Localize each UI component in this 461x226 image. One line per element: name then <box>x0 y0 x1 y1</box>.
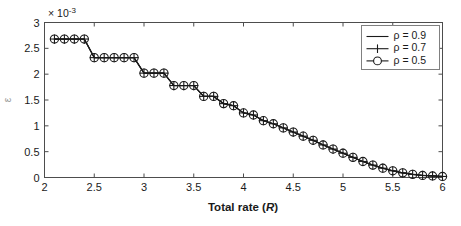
legend-entry-label: ρ = 0.9 <box>394 29 427 41</box>
y-axis-exponent-label: × 10-3 <box>48 6 76 19</box>
figure-container: 22.533.544.555.5600.511.522.53 ρ = 0.9ρ … <box>0 0 461 226</box>
chart-canvas: 22.533.544.555.5600.511.522.53 ρ = 0.9ρ … <box>0 0 461 226</box>
legend-entry-label: ρ = 0.5 <box>394 54 427 66</box>
x-tick-label: 2.5 <box>87 181 102 193</box>
chart-legend: ρ = 0.9ρ = 0.7ρ = 0.5 <box>362 26 440 70</box>
y-axis-title: ε <box>2 97 13 102</box>
y-tick-label: 1 <box>33 120 39 132</box>
x-tick-label: 5 <box>340 181 346 193</box>
x-tick-label: 5.5 <box>385 181 400 193</box>
legend-entry-label: ρ = 0.7 <box>394 41 427 53</box>
x-tick-label: 6 <box>439 181 445 193</box>
x-axis-title: Total rate (R) <box>208 201 278 213</box>
y-tick-label: 2.5 <box>24 42 39 54</box>
x-tick-label: 3 <box>141 181 147 193</box>
y-tick-label: 0.5 <box>24 146 39 158</box>
y-tick-label: 1.5 <box>24 94 39 106</box>
x-tick-label: 4.5 <box>286 181 301 193</box>
y-tick-label: 3 <box>33 17 39 29</box>
x-tick-label: 3.5 <box>186 181 201 193</box>
y-tick-label: 2 <box>33 68 39 80</box>
x-tick-label: 4 <box>240 181 246 193</box>
y-tick-label: 0 <box>33 172 39 184</box>
x-tick-label: 2 <box>41 181 47 193</box>
